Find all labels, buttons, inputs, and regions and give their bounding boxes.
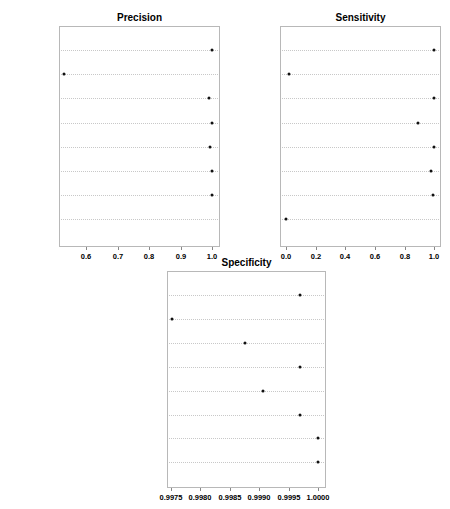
- data-point: [317, 437, 320, 440]
- data-point: [211, 170, 214, 173]
- gridline: [169, 438, 324, 439]
- gridline: [282, 147, 439, 148]
- data-point: [211, 194, 214, 197]
- plot-frame: [280, 26, 441, 247]
- data-point: [317, 461, 320, 464]
- data-point: [431, 194, 434, 197]
- data-point: [298, 413, 301, 416]
- x-tick-label: 0.6: [370, 252, 380, 261]
- chart-title: Specificity: [167, 257, 326, 268]
- gridline: [61, 195, 218, 196]
- x-tick-mark: [316, 247, 317, 250]
- data-point: [430, 170, 433, 173]
- x-tick-label: 0.9980: [189, 493, 212, 502]
- gridline: [282, 219, 439, 220]
- x-tick-mark: [181, 247, 182, 250]
- data-point: [416, 121, 419, 124]
- x-tick-label: 0.4: [340, 252, 350, 261]
- data-point: [209, 145, 212, 148]
- gridline: [282, 98, 439, 99]
- x-tick-mark: [405, 247, 406, 250]
- x-tick-mark: [200, 488, 201, 491]
- x-tick-label: 0.7: [113, 252, 123, 261]
- x-tick-mark: [375, 247, 376, 250]
- gridline: [61, 219, 218, 220]
- data-point: [171, 317, 174, 320]
- x-tick-label: 0.8: [144, 252, 154, 261]
- x-tick-label: 1.0000: [307, 493, 330, 502]
- gridline: [61, 123, 218, 124]
- x-tick-mark: [230, 488, 231, 491]
- x-tick-mark: [259, 488, 260, 491]
- data-point: [287, 73, 290, 76]
- x-tick-label: 0.8: [400, 252, 410, 261]
- x-tick-label: 0.6: [81, 252, 91, 261]
- gridline: [282, 50, 439, 51]
- x-tick-mark: [86, 247, 87, 250]
- data-point: [298, 294, 301, 297]
- x-tick-label: 0.9975: [160, 493, 183, 502]
- x-tick-mark: [149, 247, 150, 250]
- x-tick-mark: [212, 247, 213, 250]
- gridline: [169, 319, 324, 320]
- data-point: [244, 341, 247, 344]
- gridline: [282, 74, 439, 75]
- gridline: [169, 391, 324, 392]
- x-tick-mark: [286, 247, 287, 250]
- chart-title: Sensitivity: [280, 12, 441, 23]
- gridline: [61, 147, 218, 148]
- x-tick-mark: [171, 488, 172, 491]
- gridline: [61, 98, 218, 99]
- x-tick-label: 1.0: [429, 252, 439, 261]
- gridline: [61, 50, 218, 51]
- data-point: [433, 145, 436, 148]
- data-point: [285, 218, 288, 221]
- x-tick-label: 0.9990: [248, 493, 271, 502]
- data-point: [262, 389, 265, 392]
- data-point: [62, 73, 65, 76]
- plot-frame: [167, 271, 326, 488]
- plot-frame: [59, 26, 220, 247]
- x-tick-mark: [118, 247, 119, 250]
- gridline: [169, 462, 324, 463]
- chart-title: Precision: [59, 12, 220, 23]
- data-point: [433, 97, 436, 100]
- gridline: [61, 74, 218, 75]
- x-tick-label: 0.9985: [219, 493, 242, 502]
- data-point: [298, 365, 301, 368]
- data-point: [207, 97, 210, 100]
- x-tick-mark: [289, 488, 290, 491]
- data-point: [433, 49, 436, 52]
- x-tick-mark: [434, 247, 435, 250]
- x-tick-label: 0.9995: [278, 493, 301, 502]
- x-tick-mark: [345, 247, 346, 250]
- gridline: [282, 171, 439, 172]
- gridline: [282, 195, 439, 196]
- data-point: [211, 121, 214, 124]
- data-point: [211, 49, 214, 52]
- gridline: [61, 171, 218, 172]
- x-tick-mark: [318, 488, 319, 491]
